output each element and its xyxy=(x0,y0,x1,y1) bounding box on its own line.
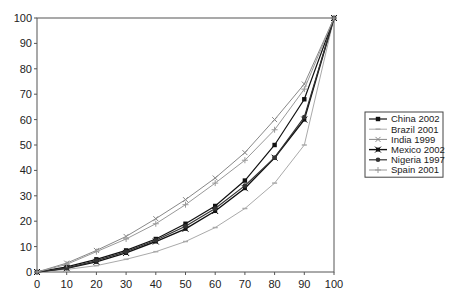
x-tick-label: 90 xyxy=(298,278,310,290)
data-point-marker xyxy=(242,150,247,155)
data-point-marker xyxy=(183,224,188,229)
legend: China 2002Brazil 2001India 1999Mexico 20… xyxy=(365,112,445,177)
x-tick-label: 100 xyxy=(325,278,343,290)
x-tick-label: 10 xyxy=(61,278,73,290)
x-tick-label: 20 xyxy=(90,278,102,290)
y-axis: 0102030405060708090100 xyxy=(14,12,37,278)
data-point-marker xyxy=(213,206,218,211)
data-point-marker xyxy=(153,216,158,221)
y-tick-label: 30 xyxy=(20,190,32,202)
plot-frame xyxy=(37,18,334,272)
x-tick-label: 30 xyxy=(120,278,132,290)
x-tick-label: 50 xyxy=(179,278,191,290)
y-tick-label: 100 xyxy=(14,12,32,24)
series-nigeria-1997 xyxy=(35,16,337,275)
data-point-marker xyxy=(124,249,129,254)
series-line xyxy=(37,18,334,272)
series-line xyxy=(37,18,334,272)
x-tick-label: 0 xyxy=(34,278,40,290)
data-point-marker xyxy=(243,178,247,182)
x-tick-label: 40 xyxy=(150,278,162,290)
series-layer xyxy=(34,15,337,275)
data-point-marker xyxy=(243,183,248,188)
y-tick-label: 20 xyxy=(20,215,32,227)
series-china-2002 xyxy=(35,16,336,274)
data-point-marker xyxy=(272,143,276,147)
data-point-marker xyxy=(302,97,306,101)
data-point-marker xyxy=(376,158,381,163)
y-tick-label: 80 xyxy=(20,63,32,75)
x-tick-label: 80 xyxy=(268,278,280,290)
y-tick-label: 50 xyxy=(20,139,32,151)
legend-label: Spain 2001 xyxy=(391,164,439,175)
y-tick-label: 10 xyxy=(20,241,32,253)
plot-border xyxy=(37,18,334,272)
data-point-marker xyxy=(272,117,277,122)
series-line xyxy=(37,18,334,272)
y-tick-label: 40 xyxy=(20,164,32,176)
data-point-marker xyxy=(376,117,380,121)
y-tick-label: 60 xyxy=(20,114,32,126)
series-line xyxy=(37,18,334,272)
data-point-marker xyxy=(183,197,188,202)
series-brazil-2001 xyxy=(35,18,337,272)
series-india-1999 xyxy=(35,16,337,275)
data-point-marker xyxy=(153,221,159,227)
x-tick-label: 60 xyxy=(209,278,221,290)
data-point-marker xyxy=(94,258,99,263)
x-axis: 0102030405060708090100 xyxy=(34,272,343,290)
lorenz-curve-chart: 0102030405060708090100 01020304050607080… xyxy=(0,0,452,297)
data-point-marker xyxy=(154,238,159,243)
data-point-marker xyxy=(213,176,218,181)
data-point-marker xyxy=(302,115,307,120)
series-line xyxy=(37,18,334,272)
y-tick-label: 70 xyxy=(20,88,32,100)
y-tick-label: 0 xyxy=(26,266,32,278)
y-tick-label: 90 xyxy=(20,37,32,49)
data-point-marker xyxy=(272,155,277,160)
series-spain-2001 xyxy=(34,15,337,275)
series-mexico-2002 xyxy=(34,15,337,275)
series-line xyxy=(37,18,334,272)
x-tick-label: 70 xyxy=(239,278,251,290)
